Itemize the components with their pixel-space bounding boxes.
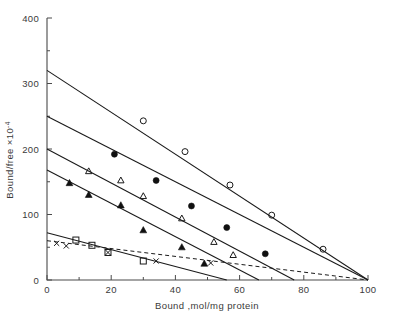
marker-cross	[105, 250, 110, 255]
marker-filled-circle	[188, 203, 194, 209]
x-axis-tick-labels: 020406080100	[44, 284, 376, 295]
marker-open-circle	[140, 118, 146, 124]
marker-filled-triangle	[201, 260, 208, 266]
x-tick-label: 60	[234, 284, 245, 295]
marker-open-circle	[227, 182, 233, 188]
y-tick-label: 400	[22, 13, 39, 24]
y-tick-label: 100	[22, 209, 39, 220]
y-axis-title-group: Bound/free ×10-4	[4, 121, 15, 198]
y-tick-label: 0	[33, 275, 39, 286]
marker-filled-circle	[153, 177, 159, 183]
axis-lines	[47, 18, 368, 280]
y-tick-label: 200	[22, 144, 39, 155]
marker-open-triangle	[230, 252, 236, 258]
x-tick-label: 0	[44, 284, 50, 295]
marker-filled-triangle	[117, 202, 124, 208]
x-tick-label: 100	[360, 284, 377, 295]
x-tick-label: 20	[106, 284, 117, 295]
series-open-circle	[140, 118, 326, 252]
fit-line-open-triangle	[47, 149, 294, 280]
scatchard-plot-figure: 020406080100 0100200300400 Bound ,mol/mg…	[0, 0, 395, 317]
fit-line-open-square	[47, 233, 227, 280]
marker-open-triangle	[118, 177, 124, 183]
series-filled-circle	[111, 151, 268, 257]
marker-open-circle	[182, 149, 188, 155]
marker-filled-circle	[262, 251, 268, 257]
fit-line-filled-circle	[47, 116, 368, 280]
y-axis-tick-labels: 0100200300400	[22, 13, 39, 286]
y-axis-title: Bound/free ×10-4	[4, 121, 15, 198]
marker-open-triangle	[211, 239, 217, 245]
x-tick-label: 40	[170, 284, 181, 295]
marker-filled-triangle	[85, 191, 92, 197]
marker-filled-triangle	[178, 244, 185, 250]
x-axis-title: Bound ,mol/mg protein	[155, 300, 259, 311]
marker-open-triangle	[140, 193, 146, 199]
x-tick-label: 80	[298, 284, 309, 295]
marker-cross	[64, 243, 69, 248]
marker-filled-circle	[111, 151, 117, 157]
chart-canvas: 020406080100 0100200300400 Bound ,mol/mg…	[0, 0, 395, 317]
y-tick-label: 300	[22, 78, 39, 89]
marker-filled-circle	[224, 225, 230, 231]
x-axis-ticks	[47, 275, 368, 280]
marker-filled-triangle	[140, 227, 147, 233]
